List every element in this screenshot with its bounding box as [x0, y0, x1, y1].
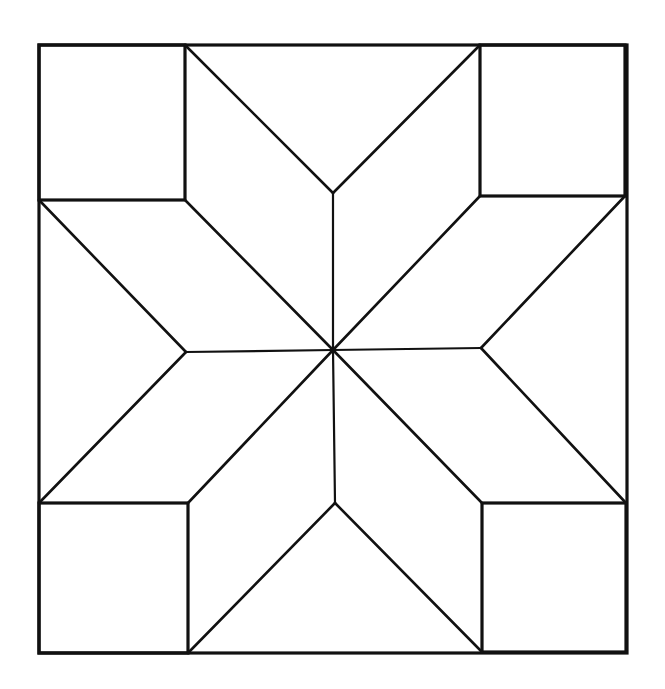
- quilt-block-diagram: [0, 0, 665, 689]
